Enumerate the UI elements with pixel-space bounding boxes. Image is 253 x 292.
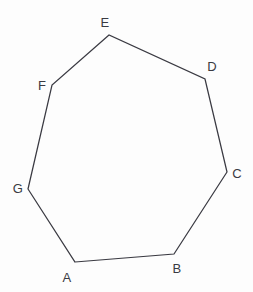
heptagon-outline <box>28 35 227 262</box>
vertex-label-g: G <box>13 182 23 195</box>
polygon-canvas <box>0 0 253 292</box>
vertex-label-a: A <box>63 271 72 284</box>
vertex-label-d: D <box>207 60 217 73</box>
vertex-label-b: B <box>173 262 182 275</box>
polygon-figure: A B C D E F G <box>0 0 253 292</box>
vertex-label-e: E <box>101 16 110 29</box>
vertex-label-c: C <box>232 167 242 180</box>
vertex-label-f: F <box>38 79 46 92</box>
